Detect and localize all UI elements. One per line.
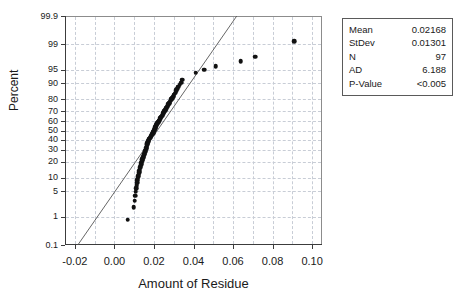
x-axis-tick [75, 245, 76, 249]
y-axis-tick [61, 245, 65, 246]
statistics-row: P-Value<0.005 [349, 77, 446, 90]
data-point [180, 78, 185, 83]
data-point [194, 71, 199, 76]
statistic-label: N [349, 50, 397, 63]
y-axis-tick-label: 20 [24, 157, 58, 166]
y-axis-tick-label: 99 [24, 40, 58, 49]
y-axis-tick-label: 99.9 [24, 12, 58, 21]
statistics-row: StDev0.01301 [349, 36, 446, 49]
statistic-value: 0.02168 [397, 23, 446, 36]
x-axis-tick [312, 245, 313, 249]
y-axis-tick-label: 90 [24, 79, 58, 88]
statistics-row: N97 [349, 50, 446, 63]
statistic-value: 6.188 [397, 63, 446, 76]
data-point [133, 194, 138, 199]
data-point [132, 205, 137, 210]
x-axis-tick [194, 245, 195, 249]
data-point [202, 67, 207, 72]
statistic-value: 0.01301 [397, 36, 446, 49]
y-axis-tick-label: 1 [24, 212, 58, 221]
y-axis-tick-label: 70 [24, 107, 58, 116]
probability-plot-figure: Percent 99.99995908070605040302010510.1 … [0, 0, 461, 300]
normal-reference-line [65, 16, 322, 245]
normal-reference-line-segment [78, 16, 237, 245]
y-axis-tick-label: 10 [24, 173, 58, 182]
statistics-summary-box: Mean0.02168StDev0.01301N97AD6.188P-Value… [342, 18, 453, 96]
x-axis-tick-label: 0.10 [286, 256, 338, 267]
data-point [292, 39, 297, 44]
statistic-value: <0.005 [397, 77, 446, 90]
statistic-label: Mean [349, 23, 397, 36]
y-axis-tick-label: 95 [24, 65, 58, 74]
x-axis-title: Amount of Residue [65, 276, 322, 291]
statistic-value: 97 [397, 50, 446, 63]
statistic-label: P-Value [349, 77, 397, 90]
statistics-table: Mean0.02168StDev0.01301N97AD6.188P-Value… [349, 23, 446, 90]
statistics-row: AD6.188 [349, 63, 446, 76]
statistics-row: Mean0.02168 [349, 23, 446, 36]
data-point [253, 54, 258, 59]
y-axis-tick-label: 40 [24, 135, 58, 144]
data-point [126, 217, 131, 222]
x-axis-tick [154, 245, 155, 249]
data-point [238, 59, 243, 64]
x-axis-tick [233, 245, 234, 249]
y-axis-tick-label: 80 [24, 95, 58, 104]
y-axis-tick-label: 5 [24, 187, 58, 196]
data-point [213, 64, 218, 69]
statistic-label: StDev [349, 36, 397, 49]
plot-area [65, 16, 322, 245]
x-axis-tick [273, 245, 274, 249]
y-axis-tick-label: 0.1 [24, 241, 58, 250]
data-point [132, 198, 137, 203]
x-axis-tick [114, 245, 115, 249]
y-axis-title: Percent [7, 95, 21, 111]
statistic-label: AD [349, 63, 397, 76]
y-axis-tick-label: 30 [24, 145, 58, 154]
